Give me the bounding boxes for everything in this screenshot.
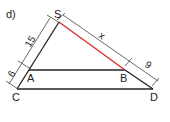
point-D-label: D: [150, 91, 158, 103]
dim-AC-label: 6: [5, 68, 18, 79]
segment-SB-highlight: [59, 22, 125, 70]
dim-SB-label: x: [97, 30, 107, 42]
dim-SA-label: 15: [22, 33, 37, 49]
problem-label: d): [6, 8, 16, 20]
geometry-figure: d) 15 6 x 9 S A B C D: [0, 0, 170, 122]
dimension-right: [57, 13, 159, 86]
point-B-label: B: [120, 72, 127, 84]
point-S-label: S: [54, 8, 61, 20]
side-BD: [125, 70, 153, 89]
point-A-label: A: [27, 72, 35, 84]
side-SC: [17, 22, 59, 89]
point-C-label: C: [12, 91, 20, 103]
dim-BD-label: 9: [143, 59, 154, 71]
